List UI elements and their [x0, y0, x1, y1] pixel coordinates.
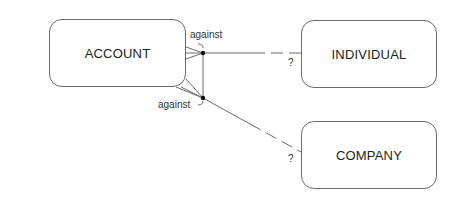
optional-marker-company: ? — [288, 153, 294, 164]
junction-dot — [201, 96, 205, 100]
er-diagram: ACCOUNT INDIVIDUAL COMPANY against again… — [0, 0, 457, 202]
optional-marker-individual: ? — [288, 57, 294, 68]
relationship-line-company — [203, 98, 250, 124]
junction-dot — [201, 51, 205, 55]
entity-label: ACCOUNT — [85, 46, 151, 61]
relationship-label-individual: against — [190, 29, 222, 40]
entity-label: INDIVIDUAL — [332, 47, 407, 62]
entity-label: COMPANY — [336, 148, 402, 163]
entity-individual[interactable]: INDIVIDUAL — [301, 20, 437, 88]
entity-company[interactable]: COMPANY — [301, 121, 437, 189]
relationship-label-company: against — [158, 99, 190, 110]
entity-account[interactable]: ACCOUNT — [49, 19, 186, 87]
